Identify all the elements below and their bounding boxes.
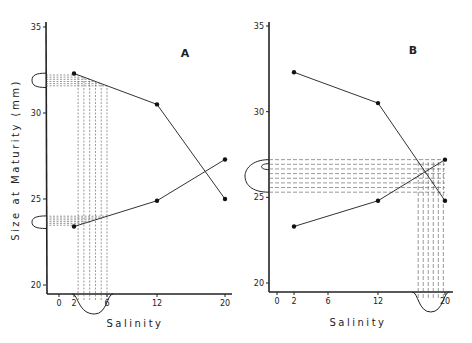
data-point: [292, 70, 296, 74]
data-point: [72, 71, 76, 75]
x-tick-label: 0: [56, 299, 61, 308]
panel-b-series: [292, 70, 447, 229]
data-point: [223, 157, 227, 161]
panel-b-label: B: [409, 44, 417, 57]
panel-a-y-ticks: 20253035: [31, 23, 46, 290]
panel-a-y-axis: [46, 22, 47, 294]
panel-a-projection-lines: [46, 75, 107, 300]
panel-a-series: [72, 71, 227, 228]
x-tick-label: 6: [325, 297, 330, 306]
data-point: [155, 102, 159, 106]
y-tick-label: 25: [254, 193, 264, 202]
y-tick-label: 35: [254, 22, 264, 31]
x-tick-label: 12: [373, 297, 383, 306]
data-point: [72, 224, 76, 228]
data-point: [155, 199, 159, 203]
data-point: [292, 224, 296, 228]
y-tick-label: 30: [31, 109, 41, 118]
series-line-increasing: [294, 160, 445, 227]
data-point: [376, 101, 380, 105]
y-distribution-inner-curve: [262, 164, 270, 170]
data-point: [443, 157, 447, 161]
panel-a-x-ticks: 0261220: [56, 294, 230, 308]
y-axis-title: Size at Maturity (mm): [10, 79, 21, 241]
panel-a: 20253035 0261220 A Salinity: [31, 22, 232, 329]
data-point: [376, 199, 380, 203]
x-tick-label: 2: [71, 299, 76, 308]
y-tick-label: 25: [31, 195, 41, 204]
panel-b-distribution-curves: [245, 160, 449, 312]
x-tick-label: 20: [220, 299, 230, 308]
y-distribution-curve: [245, 160, 269, 193]
panel-b-y-ticks: 20253035: [254, 22, 269, 288]
series-line-decreasing: [74, 73, 225, 199]
panel-b: 20253035 0261220 B Salinity: [245, 22, 453, 328]
panel-b-x-axis-title: Salinity: [330, 317, 387, 328]
y-distribution-curve: [32, 73, 46, 87]
panel-a-distribution-curves: [32, 73, 113, 314]
panel-b-projection-lines: [269, 160, 445, 298]
y-tick-label: 20: [254, 279, 264, 288]
y-tick-label: 20: [31, 281, 41, 290]
data-point: [443, 199, 447, 203]
x-tick-label: 2: [291, 297, 296, 306]
y-distribution-curve: [32, 216, 46, 229]
panel-b-x-ticks: 0261220: [274, 292, 450, 306]
x-tick-label: 12: [152, 299, 162, 308]
data-point: [223, 197, 227, 201]
y-tick-label: 30: [254, 108, 264, 117]
x-tick-label: 0: [274, 297, 279, 306]
panel-a-x-axis-title: Salinity: [107, 318, 164, 329]
series-line-decreasing: [294, 72, 445, 201]
y-tick-label: 35: [31, 23, 41, 32]
figure: Size at Maturity (mm) 20253035 0261220 A…: [0, 0, 472, 343]
panel-a-label: A: [181, 47, 190, 60]
